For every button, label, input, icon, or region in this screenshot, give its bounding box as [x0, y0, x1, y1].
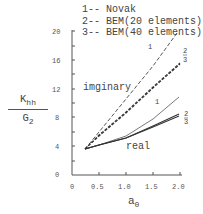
x-tick-2-0: 2.0: [172, 183, 185, 191]
plot-area: 20 16 12 8 4 0 0 0.5 1.0 1.5 2.0 imginar…: [0, 0, 203, 214]
label-curve1-real: 1: [155, 98, 159, 106]
label-curve2-imag: 2: [183, 47, 187, 55]
curve-imaginary-bem40: [85, 64, 180, 149]
label-curve1-imag: 1: [148, 43, 152, 51]
y-tick-0: 0: [55, 171, 59, 179]
y-tick-8: 8: [55, 114, 59, 122]
y-tick-20: 20: [52, 28, 60, 36]
label-curve2-real: 2: [184, 110, 188, 118]
x-tick-0: 0: [70, 183, 74, 191]
y-tick-16: 16: [52, 57, 60, 65]
label-curve3-real: 3: [184, 118, 188, 126]
x-tick-1-0: 1.0: [118, 183, 131, 191]
x-tick-0-5: 0.5: [91, 183, 104, 191]
label-real: real: [126, 141, 150, 152]
x-tick-1-5: 1.5: [145, 183, 158, 191]
y-tick-4: 4: [55, 143, 59, 151]
y-tick-12: 12: [52, 86, 60, 94]
label-curve3-imag: 3: [183, 56, 187, 64]
label-imaginary: imginary: [83, 82, 131, 93]
